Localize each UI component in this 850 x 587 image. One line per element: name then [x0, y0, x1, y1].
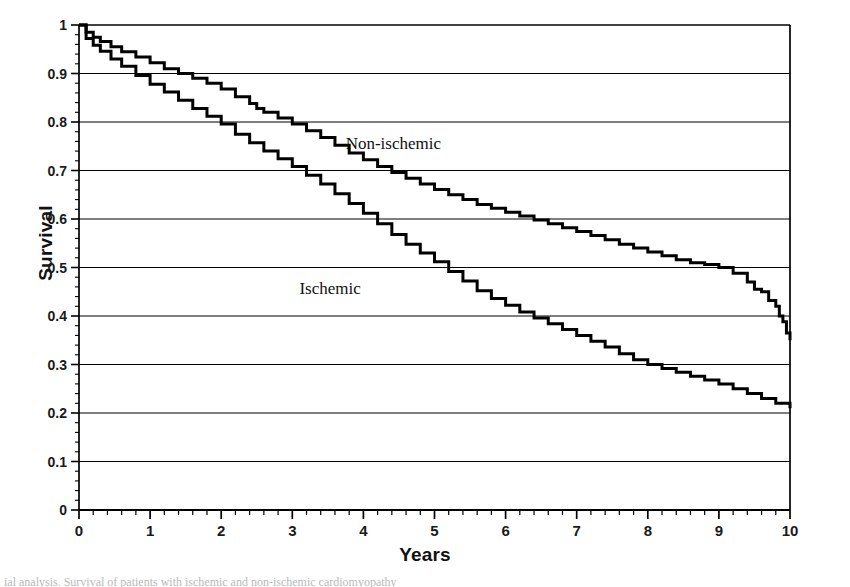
- x-tick-label: 3: [272, 523, 312, 538]
- x-tick-label: 10: [770, 523, 810, 538]
- series-curves: [79, 25, 790, 408]
- x-tick-label: 8: [628, 523, 668, 538]
- y-tick-label: 0.9: [21, 67, 67, 81]
- y-tick-label: 0.1: [21, 455, 67, 469]
- y-tick-label: 0.4: [21, 309, 67, 323]
- y-tick-label: 0.8: [21, 115, 67, 129]
- y-tick-label: 0.7: [21, 164, 67, 178]
- series-label-non-ischemic: Non-ischemic: [346, 134, 441, 154]
- series-label-ischemic: Ischemic: [299, 279, 360, 299]
- x-tick-label: 4: [343, 523, 383, 538]
- plot-area: [0, 0, 850, 587]
- survival-chart-figure: Survival Years 00.10.20.30.40.50.60.70.8…: [0, 0, 850, 587]
- x-tick-label: 7: [557, 523, 597, 538]
- x-axis-major-ticks: [79, 510, 790, 519]
- y-tick-label: 0: [21, 503, 67, 517]
- x-tick-label: 0: [59, 523, 99, 538]
- x-tick-label: 1: [130, 523, 170, 538]
- y-tick-label: 0.5: [21, 261, 67, 275]
- x-tick-label: 5: [415, 523, 455, 538]
- y-tick-label: 0.6: [21, 212, 67, 226]
- x-tick-label: 2: [201, 523, 241, 538]
- y-tick-label: 1: [21, 18, 67, 32]
- y-axis-major-ticks: [71, 25, 79, 510]
- figure-caption-partial: ial analysis. Survival of patients with …: [0, 575, 850, 587]
- y-tick-label: 0.3: [21, 358, 67, 372]
- x-tick-label: 6: [486, 523, 526, 538]
- y-tick-label: 0.2: [21, 406, 67, 420]
- y-axis-title: Survival: [35, 163, 57, 323]
- x-axis-title: Years: [0, 544, 850, 566]
- x-tick-label: 9: [699, 523, 739, 538]
- gridlines: [79, 25, 790, 462]
